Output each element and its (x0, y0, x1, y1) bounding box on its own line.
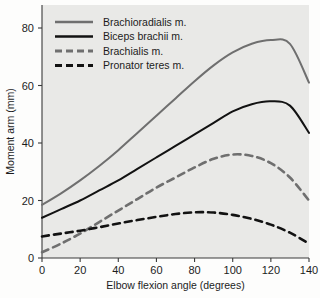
y-axis-ticks: 020406080 (22, 22, 42, 264)
x-tick-label: 100 (224, 264, 242, 276)
y-tick-label: 80 (22, 22, 34, 34)
x-tick-label: 40 (112, 264, 124, 276)
y-axis-label: Moment arm (mm) (4, 88, 16, 174)
figure-container: 020406080100120140 020406080 Brachioradi… (0, 0, 320, 298)
x-axis-ticks: 020406080100120140 (39, 258, 318, 276)
y-tick-label: 0 (28, 252, 34, 264)
legend-label-2: Biceps brachii m. (103, 30, 183, 42)
y-tick-label: 20 (22, 195, 34, 207)
x-tick-label: 20 (74, 264, 86, 276)
x-tick-label: 140 (300, 264, 318, 276)
x-tick-label: 0 (39, 264, 45, 276)
x-tick-label: 120 (262, 264, 280, 276)
x-axis-label: Elbow flexion angle (degrees) (106, 279, 244, 291)
legend-label-3: Brachialis m. (103, 45, 163, 57)
y-tick-label: 60 (22, 80, 34, 92)
legend-label-4: Pronator teres m. (103, 59, 184, 71)
legend-label-1: Brachioradialis m. (103, 16, 186, 28)
y-tick-label: 40 (22, 137, 34, 149)
x-tick-label: 60 (150, 264, 162, 276)
moment-arm-line-chart: 020406080100120140 020406080 Brachioradi… (0, 0, 320, 298)
x-tick-label: 80 (188, 264, 200, 276)
plot-background (42, 5, 309, 258)
